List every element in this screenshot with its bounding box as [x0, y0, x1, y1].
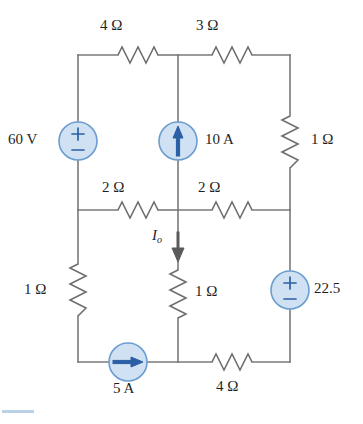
- resistor-group: [70, 47, 298, 370]
- label-current-io: Io: [152, 228, 162, 245]
- resistor-4ohm-bottom-right-symbol: [212, 354, 252, 370]
- label-resistor-2ohm-mid-left: 2 Ω: [102, 180, 124, 195]
- label-source-10a: 10 A: [205, 132, 234, 147]
- label-resistor-1ohm-left-lower: 1 Ω: [24, 282, 46, 297]
- voltage-source-22-5-symbol[interactable]: [271, 271, 309, 309]
- label-resistor-4ohm-top-left: 4 Ω: [100, 18, 122, 33]
- resistor-4ohm-top-left-symbol: [118, 47, 158, 63]
- label-resistor-2ohm-mid-right: 2 Ω: [198, 180, 220, 195]
- label-resistor-1ohm-right-upper: 1 Ω: [311, 132, 333, 147]
- circuit-schematic-canvas: [0, 0, 363, 424]
- label-current-io-subscript: o: [157, 234, 162, 245]
- voltage-source-60v-symbol[interactable]: [59, 122, 97, 160]
- resistor-1ohm-middle-lower-symbol: [170, 270, 186, 318]
- resistor-1ohm-right-upper-symbol: [282, 116, 298, 168]
- circuit-diagram: 4 Ω 3 Ω 60 V 10 A 1 Ω 2 Ω 2 Ω Io 1 Ω 1 Ω…: [0, 0, 363, 424]
- label-source-5a: 5 A: [113, 381, 134, 396]
- current-source-10a-symbol[interactable]: [159, 122, 197, 160]
- label-resistor-4ohm-bottom-right: 4 Ω: [216, 379, 238, 394]
- current-source-5a-symbol[interactable]: [109, 343, 147, 381]
- resistor-2ohm-mid-left-symbol: [118, 202, 158, 218]
- label-resistor-3ohm-top-right: 3 Ω: [196, 18, 218, 33]
- io-current-arrow-icon: [172, 232, 184, 262]
- scan-artifact-bar: [2, 410, 34, 413]
- resistor-3ohm-top-right-symbol: [212, 47, 252, 63]
- label-source-22-5: 22.5: [314, 281, 340, 296]
- label-source-60v: 60 V: [8, 132, 37, 147]
- resistor-2ohm-mid-right-symbol: [212, 202, 252, 218]
- wire-network: [78, 55, 290, 362]
- resistor-1ohm-left-lower-symbol: [70, 264, 86, 316]
- label-resistor-1ohm-middle-lower: 1 Ω: [195, 284, 217, 299]
